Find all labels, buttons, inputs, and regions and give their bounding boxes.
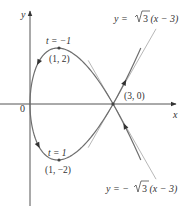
param-label-t-1: t = 1 [48, 148, 67, 158]
parametric-curve-diagram: x y 0 t = −1 (1, 2) t = 1 (1, −2) (3, 0)… [0, 0, 190, 212]
tangent-equation-top: y = 3 (x − 3) [113, 11, 179, 25]
svg-text:3 (x − 3): 3 (x − 3) [142, 183, 178, 195]
eq-bottom-sqrt: 3 [142, 183, 147, 194]
eq-bottom-prefix: y = − [105, 183, 129, 194]
eq-top-sqrt: 3 [143, 13, 148, 24]
point-marker-1-2 [57, 46, 60, 49]
point-marker-3-0 [111, 102, 114, 105]
y-axis-label: y [20, 9, 26, 20]
coord-label-1-2: (1, 2) [49, 54, 70, 65]
coord-label-3-0: (3, 0) [124, 91, 145, 102]
svg-text:y = −: y = − [105, 183, 129, 194]
svg-text:y =: y = [113, 13, 128, 24]
svg-text:3 (x − 3): 3 (x − 3) [143, 13, 179, 25]
origin-label: 0 [20, 103, 25, 114]
coord-label-1-neg2: (1, −2) [45, 165, 71, 176]
eq-top-suffix: (x − 3) [151, 13, 180, 25]
point-marker-1-neg2 [57, 158, 60, 161]
axes: x y 0 [0, 9, 178, 206]
point-labels: t = −1 (1, 2) t = 1 (1, −2) (3, 0) [45, 36, 145, 176]
eq-bottom-suffix: (x − 3) [150, 183, 179, 195]
tangent-equation-bottom: y = − 3 (x − 3) [105, 181, 178, 195]
direction-arrow-icon [35, 142, 42, 150]
eq-top-prefix: y = [113, 13, 128, 24]
direction-arrow-icon [35, 59, 42, 67]
x-axis-label: x [172, 109, 178, 120]
param-label-t-neg1: t = −1 [46, 36, 71, 46]
